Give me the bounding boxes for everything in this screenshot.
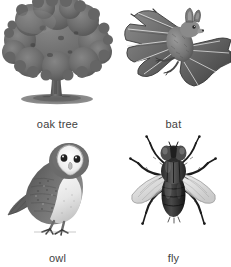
bat-icon	[116, 0, 231, 112]
caption-owl: owl	[0, 252, 115, 265]
grid-cell-oak-tree: oak tree	[0, 0, 115, 133]
grid-cell-owl: owl	[0, 133, 115, 266]
caption-bat: bat	[116, 118, 231, 131]
oak-tree-icon	[0, 0, 115, 112]
grid-cell-bat: bat	[116, 0, 231, 133]
grid-cell-fly: fly	[116, 133, 231, 266]
caption-oak-tree: oak tree	[0, 118, 115, 131]
fly-icon	[116, 133, 231, 245]
owl-icon	[0, 133, 115, 245]
caption-fly: fly	[116, 252, 231, 265]
image-grid: oak tree	[0, 0, 231, 267]
